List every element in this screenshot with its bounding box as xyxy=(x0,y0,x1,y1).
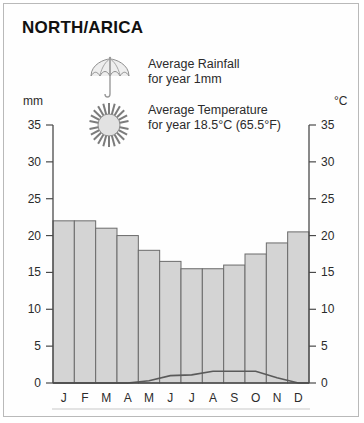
left-axis-tick-label: 35 xyxy=(28,118,42,132)
temperature-bar xyxy=(288,232,309,383)
x-axis-month-label: O xyxy=(251,391,260,405)
temperature-bar xyxy=(138,250,159,383)
x-axis-month-label: J xyxy=(167,391,173,405)
right-axis-tick-label: 0 xyxy=(321,376,328,390)
temperature-bar xyxy=(117,236,138,383)
x-axis-month-label: J xyxy=(189,391,195,405)
temperature-bar xyxy=(96,228,117,383)
x-axis-month-label: M xyxy=(101,391,111,405)
temperature-bar xyxy=(74,221,95,383)
x-axis-month-label: S xyxy=(230,391,238,405)
climate-plot: 0510152025303505101520253035JFMAMJJASOND xyxy=(4,4,359,417)
x-axis-month-label: F xyxy=(81,391,88,405)
temperature-bar xyxy=(224,265,245,383)
left-axis-tick-label: 25 xyxy=(28,192,42,206)
temperature-bar xyxy=(181,269,202,383)
x-axis-month-label: N xyxy=(273,391,282,405)
left-axis-tick-label: 20 xyxy=(28,229,42,243)
x-axis-month-label: J xyxy=(61,391,67,405)
left-axis-tick-label: 0 xyxy=(34,376,41,390)
x-axis-month-label: A xyxy=(124,391,132,405)
right-axis-tick-label: 10 xyxy=(321,302,335,316)
x-axis-month-label: A xyxy=(209,391,217,405)
right-axis-tick-label: 15 xyxy=(321,265,335,279)
temperature-bar xyxy=(53,221,74,383)
left-axis-tick-label: 5 xyxy=(34,339,41,353)
temperature-bar xyxy=(160,261,181,383)
left-axis-tick-label: 15 xyxy=(28,265,42,279)
temperature-bar xyxy=(266,243,287,383)
climate-chart-card: NORTH/ARICA xyxy=(3,3,359,417)
left-axis-tick-label: 30 xyxy=(28,155,42,169)
temperature-bar xyxy=(245,254,266,383)
left-axis-tick-label: 10 xyxy=(28,302,42,316)
right-axis-tick-label: 5 xyxy=(321,339,328,353)
right-axis-tick-label: 20 xyxy=(321,229,335,243)
x-axis-month-label: M xyxy=(144,391,154,405)
right-axis-tick-label: 35 xyxy=(321,118,335,132)
x-axis-month-label: D xyxy=(294,391,303,405)
right-axis-tick-label: 30 xyxy=(321,155,335,169)
temperature-bar xyxy=(202,269,223,383)
right-axis-tick-label: 25 xyxy=(321,192,335,206)
